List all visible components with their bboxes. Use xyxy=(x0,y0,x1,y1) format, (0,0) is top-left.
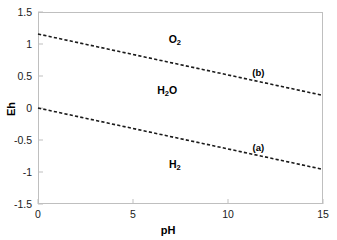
line-b-label: (b) xyxy=(252,67,264,78)
x-tick-label-10: 10 xyxy=(222,208,234,220)
x-axis-ticks xyxy=(38,199,323,204)
y-tick-label-minus1.5: -1.5 xyxy=(4,198,32,210)
y-tick-label-1.5: 1.5 xyxy=(4,6,32,18)
water-region-label-main: H xyxy=(157,84,165,96)
hydrogen-region-label-sub: 2 xyxy=(177,163,181,172)
hydrogen-region-label: H2 xyxy=(169,158,181,170)
water-region-label-sub: 2 xyxy=(165,89,169,98)
line-a-label: (a) xyxy=(253,142,265,153)
hydrogen-region-label-main: H xyxy=(169,158,177,170)
y-axis-title: Eh xyxy=(5,102,17,116)
y-tick-label-minus1: -1 xyxy=(4,166,32,178)
x-tick-label-15: 15 xyxy=(317,208,329,220)
x-tick-label-5: 5 xyxy=(130,208,136,220)
y-tick-label-1: 1 xyxy=(4,38,32,50)
oxygen-region-label-sub: 2 xyxy=(177,38,181,47)
x-tick-label-0: 0 xyxy=(35,208,41,220)
water-region-label: H2O xyxy=(157,84,177,96)
oxygen-region-label: O2 xyxy=(169,33,181,45)
water-region-label-tail: O xyxy=(169,84,177,96)
y-tick-label-0.5: 0.5 xyxy=(4,70,32,82)
x-axis-title: pH xyxy=(161,224,176,236)
oxygen-region-label-main: O xyxy=(169,33,177,45)
y-tick-label-minus0.5: -0.5 xyxy=(4,134,32,146)
eh-ph-diagram: 1.5 1 0.5 0 -0.5 -1 -1.5 0 5 10 15 Eh pH… xyxy=(0,0,337,240)
